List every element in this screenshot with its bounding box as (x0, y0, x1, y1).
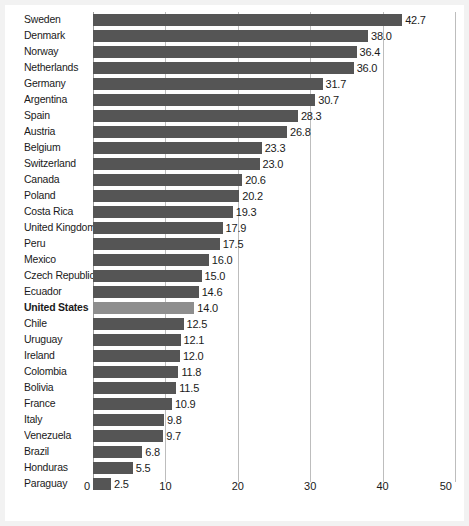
bar (93, 46, 357, 58)
category-label: Mexico (24, 252, 85, 268)
bar-container: 12.5 (93, 318, 455, 330)
plot-area: Sweden42.7Denmark38.0Norway36.4Netherlan… (93, 12, 455, 476)
bar-row: Poland20.2 (93, 188, 455, 204)
bar-container: 30.7 (93, 94, 455, 106)
category-label: Czech Republic (24, 268, 85, 284)
bar (93, 446, 142, 458)
bar-value-label: 5.5 (136, 461, 151, 475)
category-label: United States (24, 300, 85, 316)
bar-value-label: 12.0 (183, 349, 204, 363)
bar (93, 254, 209, 266)
bar-value-label: 12.5 (187, 317, 208, 331)
bar (93, 206, 233, 218)
category-label: Peru (24, 236, 85, 252)
bar-row: Netherlands36.0 (93, 60, 455, 76)
category-label: Spain (24, 108, 85, 124)
x-axis: 01020304050 (93, 476, 455, 498)
category-label: Argentina (24, 92, 85, 108)
bar-row: Italy9.8 (93, 412, 455, 428)
bar-value-label: 12.1 (184, 333, 205, 347)
bar-value-label: 23.0 (263, 157, 284, 171)
bar-container: 26.8 (93, 126, 455, 138)
bar-value-label: 6.8 (145, 445, 160, 459)
bar-value-label: 15.0 (205, 269, 226, 283)
category-label: Austria (24, 124, 85, 140)
category-label: Chile (24, 316, 85, 332)
bar-row: Ireland12.0 (93, 348, 455, 364)
bar-rows: Sweden42.7Denmark38.0Norway36.4Netherlan… (93, 12, 455, 492)
category-label: Bolivia (24, 380, 85, 396)
bar-container: 5.5 (93, 462, 455, 474)
bar-row: Honduras5.5 (93, 460, 455, 476)
bar-value-label: 19.3 (236, 205, 257, 219)
bar-row: Spain28.3 (93, 108, 455, 124)
bar-row: Canada20.6 (93, 172, 455, 188)
bar-container: 42.7 (93, 14, 455, 26)
bar (93, 430, 163, 442)
bar-container: 31.7 (93, 78, 455, 90)
category-label: France (24, 396, 85, 412)
bar-value-label: 20.2 (242, 189, 263, 203)
bar-container: 11.8 (93, 366, 455, 378)
bar-row: Sweden42.7 (93, 12, 455, 28)
bar-value-label: 9.7 (166, 429, 181, 443)
category-label: Netherlands (24, 60, 85, 76)
bar-row: United States14.0 (93, 300, 455, 316)
bar-value-label: 16.0 (212, 253, 233, 267)
bar-container: 12.1 (93, 334, 455, 346)
bar-row: Switzerland23.0 (93, 156, 455, 172)
bar (93, 350, 180, 362)
bar-container: 38.0 (93, 30, 455, 42)
bar-container: 10.9 (93, 398, 455, 410)
bar-value-label: 38.0 (371, 29, 392, 43)
bar-row: Chile12.5 (93, 316, 455, 332)
bar-value-label: 11.5 (179, 381, 199, 395)
bar-container: 20.2 (93, 190, 455, 202)
x-tick-label-20: 20 (232, 480, 244, 492)
bar (93, 14, 402, 26)
bar (93, 142, 262, 154)
bar-row: Belgium23.3 (93, 140, 455, 156)
bar-container: 9.8 (93, 414, 455, 426)
bar (93, 158, 260, 170)
bar (93, 286, 199, 298)
category-label: Belgium (24, 140, 85, 156)
bar-container: 28.3 (93, 110, 455, 122)
bar (93, 238, 220, 250)
bar (93, 222, 223, 234)
bar (93, 414, 164, 426)
bar (93, 302, 194, 314)
x-tick-label-50: 50 (440, 480, 455, 492)
bar-value-label: 17.5 (223, 237, 244, 251)
category-label: Ireland (24, 348, 85, 364)
bar-row: Norway36.4 (93, 44, 455, 60)
bar-value-label: 14.0 (197, 301, 218, 315)
bar-container: 23.3 (93, 142, 455, 154)
bar-row: Austria26.8 (93, 124, 455, 140)
bar-value-label: 36.0 (357, 61, 378, 75)
bar-value-label: 23.3 (265, 141, 286, 155)
category-label: Germany (24, 76, 85, 92)
category-label: Venezuela (24, 428, 85, 444)
bar (93, 462, 133, 474)
gridline-50 (455, 12, 456, 482)
bar-row: Venezuela9.7 (93, 428, 455, 444)
bar-row: Colombia11.8 (93, 364, 455, 380)
bar (93, 126, 287, 138)
bar-row: Denmark38.0 (93, 28, 455, 44)
x-tick-label-10: 10 (159, 480, 171, 492)
category-label: Paraguay (24, 476, 85, 492)
bar-value-label: 20.6 (245, 173, 266, 187)
chart-page: Sweden42.7Denmark38.0Norway36.4Netherlan… (0, 0, 469, 526)
bar-container: 11.5 (93, 382, 455, 394)
category-label: Uruguay (24, 332, 85, 348)
bar-value-label: 14.6 (202, 285, 223, 299)
bar (93, 398, 172, 410)
category-label: Ecuador (24, 284, 85, 300)
bar-container: 20.6 (93, 174, 455, 186)
category-label: Switzerland (24, 156, 85, 172)
bar-container: 16.0 (93, 254, 455, 266)
bar (93, 110, 298, 122)
bar (93, 190, 239, 202)
bar (93, 30, 368, 42)
